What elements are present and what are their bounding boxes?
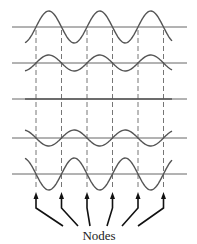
- arrowhead-icon: [85, 192, 90, 199]
- nodes-label: Nodes: [82, 228, 115, 243]
- node-arrow: [87, 197, 90, 226]
- equilibrium-lines: [12, 27, 187, 174]
- arrowhead-icon: [34, 192, 39, 199]
- node-arrows: [34, 192, 167, 226]
- node-arrow: [138, 197, 164, 226]
- node-arrow: [107, 197, 113, 226]
- standing-wave-diagram: Nodes: [0, 0, 197, 244]
- node-arrow: [122, 197, 138, 226]
- arrowhead-icon: [110, 192, 115, 199]
- arrowhead-icon: [136, 192, 141, 199]
- arrowhead-icon: [59, 192, 64, 199]
- arrowhead-icon: [161, 192, 166, 199]
- wave-snapshots: [25, 11, 172, 190]
- node-dashed-lines: [36, 30, 164, 188]
- node-arrow: [36, 197, 63, 226]
- node-arrow: [62, 197, 79, 226]
